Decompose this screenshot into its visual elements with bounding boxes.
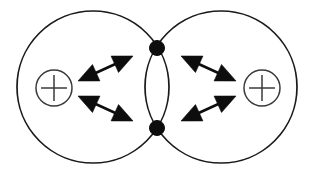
bottom-intersection-node (150, 121, 165, 136)
left-charge (36, 70, 72, 106)
right-charge (244, 70, 280, 106)
top-intersection-node (150, 41, 165, 56)
figure-root (0, 0, 314, 176)
diagram-canvas (0, 0, 314, 176)
